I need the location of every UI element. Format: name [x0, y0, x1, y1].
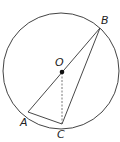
circle-diagram: O B A C	[0, 0, 120, 142]
segment-ab	[28, 28, 100, 112]
label-c: C	[57, 128, 65, 141]
label-o: O	[55, 56, 64, 69]
label-b: B	[101, 14, 109, 27]
segment-bc	[62, 28, 100, 124]
center-point-o	[60, 70, 65, 75]
label-a: A	[19, 116, 28, 129]
